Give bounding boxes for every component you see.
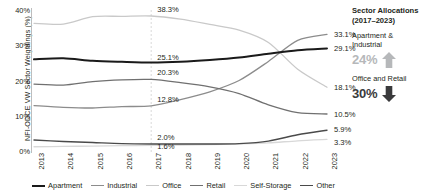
y-tick-label: 10% <box>15 111 30 120</box>
legend-swatch-other <box>300 185 313 186</box>
legend-label: Industrial <box>107 181 137 190</box>
panel-value: 30% <box>352 86 377 101</box>
panel-title-line1: Sector Allocations <box>352 6 430 16</box>
x-tick-label: 2016 <box>125 153 134 169</box>
x-tick-label: 2018 <box>184 153 193 169</box>
legend-swatch-retail <box>190 185 203 186</box>
legend-item-office[interactable]: Office <box>146 181 181 190</box>
legend-item-industrial[interactable]: Industrial <box>91 181 137 190</box>
panel-value: 24% <box>352 52 377 67</box>
data-label-2017-other: 2.0% <box>157 133 174 142</box>
x-tick-label: 2017 <box>154 153 163 169</box>
series-line-industrial <box>34 34 327 108</box>
x-tick-label: 2013 <box>37 153 46 169</box>
legend-swatch-industrial <box>91 185 104 186</box>
x-tick-label: 2022 <box>301 153 310 169</box>
data-label-end-other: 5.9% <box>334 125 351 134</box>
x-tick-label: 2020 <box>242 153 251 169</box>
panel-group: Apartment &Industrial24% <box>352 32 430 68</box>
x-tick-label: 2021 <box>271 153 280 169</box>
legend-label: Apartment <box>48 181 82 190</box>
panel-group-name: Office and Retail <box>352 75 430 84</box>
legend-label: Retail <box>206 181 225 190</box>
legend-label: Self-Storage <box>250 181 291 190</box>
panel-value-row: 30% <box>352 86 430 102</box>
y-tick-label: 30% <box>15 41 30 50</box>
legend-item-self-storage[interactable]: Self-Storage <box>234 181 291 190</box>
series-line-retail <box>34 79 327 114</box>
legend-swatch-self-storage <box>234 185 247 186</box>
x-tick-label: 2019 <box>213 153 222 169</box>
data-label-2017-industrial: 12.8% <box>157 95 179 104</box>
line-chart-svg <box>31 8 330 153</box>
sector-allocations-panel: Sector Allocations (2017–2023) Apartment… <box>352 6 430 102</box>
series-line-self-storage <box>34 139 327 146</box>
legend-swatch-apartment <box>32 185 45 187</box>
chart-legend: ApartmentIndustrialOfficeRetailSelf-Stor… <box>31 180 336 191</box>
panel-value-row: 24% <box>352 52 430 68</box>
legend-label: Other <box>316 181 334 190</box>
data-label-end-self-storage: 3.3% <box>334 138 351 147</box>
panel-group-name-line2: Industrial <box>352 41 430 50</box>
panel-title: Sector Allocations (2017–2023) <box>352 6 430 25</box>
legend-item-apartment[interactable]: Apartment <box>32 181 82 190</box>
legend-item-other[interactable]: Other <box>300 181 334 190</box>
x-tick-label: 2015 <box>96 153 105 169</box>
arrow-up-icon <box>382 52 396 68</box>
y-tick-label: 40% <box>15 6 30 15</box>
x-tick-label: 2023 <box>330 153 339 169</box>
panel-groups: Apartment &Industrial24%Office and Retai… <box>352 32 430 101</box>
x-axis-ticks: 2013201420152016201720182019202020212022… <box>31 153 330 179</box>
data-label-2017-office: 38.3% <box>157 5 179 14</box>
panel-title-line2: (2017–2023) <box>352 16 430 26</box>
legend-item-retail[interactable]: Retail <box>190 181 225 190</box>
arrow-down-icon <box>382 86 396 102</box>
x-tick-label: 2014 <box>66 153 75 169</box>
legend-label: Office <box>162 181 181 190</box>
y-tick-label: 20% <box>15 76 30 85</box>
y-axis-ticks: 0%10%20%30%40% <box>0 0 30 191</box>
panel-group: Office and Retail30% <box>352 75 430 102</box>
data-label-end-retail: 10.5% <box>334 110 356 119</box>
data-label-2017-self-storage: 1.6% <box>157 142 174 151</box>
legend-swatch-office <box>146 185 159 186</box>
y-tick-label: 0% <box>19 147 30 156</box>
chart-container: NFI-ODCE VW Sector Weightings (%) 0%10%2… <box>0 0 430 191</box>
plot-area <box>31 8 330 153</box>
data-label-2017-retail: 20.3% <box>157 68 179 77</box>
data-label-2017-apartment: 25.1% <box>157 53 179 62</box>
